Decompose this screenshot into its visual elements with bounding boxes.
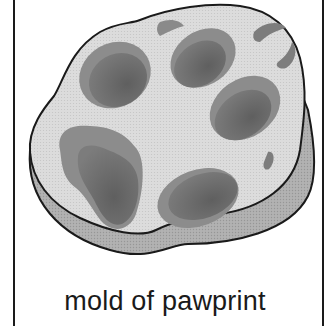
pawprint-mold-illustration: [0, 0, 330, 280]
figure-caption: mold of pawprint: [0, 286, 330, 317]
